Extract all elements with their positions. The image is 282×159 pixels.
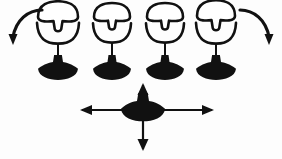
figure-root: Gyroscope rotation and translation diagr… — [0, 0, 282, 159]
figure-background — [0, 0, 282, 159]
gyroscope-diagram-svg — [0, 0, 282, 159]
